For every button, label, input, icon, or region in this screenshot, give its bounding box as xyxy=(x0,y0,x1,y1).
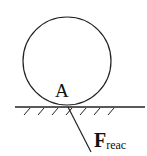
point-a-label: A xyxy=(55,80,69,101)
force-label: Freac xyxy=(94,129,126,152)
diagram: A Freac xyxy=(0,0,147,156)
force-symbol: F xyxy=(94,129,106,151)
force-subscript: reac xyxy=(106,138,126,152)
reaction-force-line xyxy=(68,107,91,152)
